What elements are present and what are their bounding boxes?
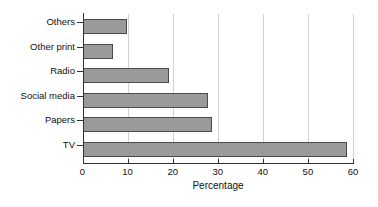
y-axis-spine xyxy=(83,13,84,164)
x-label-10: 10 xyxy=(113,166,143,177)
gridline-30 xyxy=(218,14,219,163)
y-tick-papers xyxy=(77,120,83,121)
x-label-50: 50 xyxy=(293,166,323,177)
bar-tv xyxy=(83,142,347,157)
x-label-0: 0 xyxy=(68,166,98,177)
x-tick-60 xyxy=(353,159,354,164)
y-tick-radio xyxy=(77,71,83,72)
y-label-tv: TV xyxy=(63,139,75,150)
bar-radio xyxy=(83,68,170,83)
bar-papers xyxy=(83,117,213,132)
plot-area xyxy=(83,14,354,163)
x-label-60: 60 xyxy=(338,166,368,177)
bar-chart: Others Other print Radio Social media Pa… xyxy=(0,0,378,207)
x-tick-30 xyxy=(218,159,219,164)
y-label-other-print: Other print xyxy=(30,41,75,52)
y-tick-other-print xyxy=(77,47,83,48)
y-label-radio: Radio xyxy=(50,65,75,76)
gridline-10 xyxy=(128,14,129,163)
x-tick-0 xyxy=(83,159,84,164)
y-tick-social-media xyxy=(77,96,83,97)
x-label-30: 30 xyxy=(203,166,233,177)
bar-other-print xyxy=(83,44,114,59)
y-tick-tv xyxy=(77,145,83,146)
y-tick-others xyxy=(77,22,83,23)
bar-social-media xyxy=(83,93,209,108)
x-tick-10 xyxy=(128,159,129,164)
x-label-40: 40 xyxy=(248,166,278,177)
y-label-papers: Papers xyxy=(45,114,75,125)
x-tick-20 xyxy=(173,159,174,164)
gridline-60 xyxy=(353,14,354,163)
x-axis-title: Percentage xyxy=(83,180,354,192)
y-label-others: Others xyxy=(46,16,75,27)
x-tick-40 xyxy=(263,159,264,164)
y-axis-labels: Others Other print Radio Social media Pa… xyxy=(0,0,75,207)
x-label-20: 20 xyxy=(158,166,188,177)
bar-others xyxy=(83,19,127,34)
gridline-20 xyxy=(173,14,174,163)
x-tick-50 xyxy=(308,159,309,164)
y-label-social-media: Social media xyxy=(21,90,75,101)
gridline-40 xyxy=(263,14,264,163)
gridline-50 xyxy=(308,14,309,163)
